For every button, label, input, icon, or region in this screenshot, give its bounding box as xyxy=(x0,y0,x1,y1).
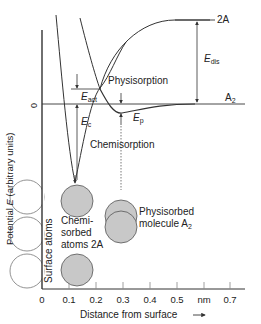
svg-text:0.1: 0.1 xyxy=(62,294,75,305)
chemisorbed-label-2: sorbed xyxy=(61,227,92,238)
x-tick-labels: 0 0.1 0.2 0.3 0.4 0.5 nm 0.7 xyxy=(39,294,236,305)
e-dis-label: Edis xyxy=(204,53,220,65)
svg-text:0.3: 0.3 xyxy=(116,294,129,305)
e-act-label: Eact xyxy=(81,91,97,103)
chemisorption-inner-curve xyxy=(80,18,100,89)
surface-atoms-label: Surface atoms xyxy=(43,219,54,283)
svg-text:0: 0 xyxy=(39,294,44,305)
e-p-label: Ep xyxy=(133,112,144,125)
x-ticks xyxy=(69,282,230,289)
x-axis-label: Distance from surface xyxy=(80,309,178,320)
level-2a-label: 2A xyxy=(217,14,230,25)
physisorbed-label-2: molecule A2 xyxy=(139,218,192,230)
svg-text:0.2: 0.2 xyxy=(89,294,102,305)
chemisorbed-label-1: Chemi- xyxy=(61,215,93,226)
svg-text:nm: nm xyxy=(197,294,210,305)
level-a2-label: A2 xyxy=(225,92,236,104)
chemisorption-label: Chemisorption xyxy=(90,139,154,150)
y-zero-label: 0 xyxy=(29,103,39,108)
e-c-label: Ec xyxy=(81,116,92,128)
surface-atoms xyxy=(10,180,44,288)
svg-text:0.4: 0.4 xyxy=(143,294,156,305)
adsorption-potential-diagram: Potential E (arbitrary units) 0 Surface … xyxy=(0,0,261,324)
chemisorbed-label-3: atoms 2A xyxy=(61,239,104,250)
y-axis-label: Potential E (arbitrary units) xyxy=(4,133,15,245)
svg-text:0.5: 0.5 xyxy=(170,294,183,305)
physisorbed-label-1: Physisorbed xyxy=(139,206,194,217)
physisorption-curve xyxy=(100,89,195,113)
physisorbed-molecule xyxy=(105,200,137,243)
physisorption-label: Physisorption xyxy=(108,75,168,86)
svg-text:0.7: 0.7 xyxy=(223,294,236,305)
